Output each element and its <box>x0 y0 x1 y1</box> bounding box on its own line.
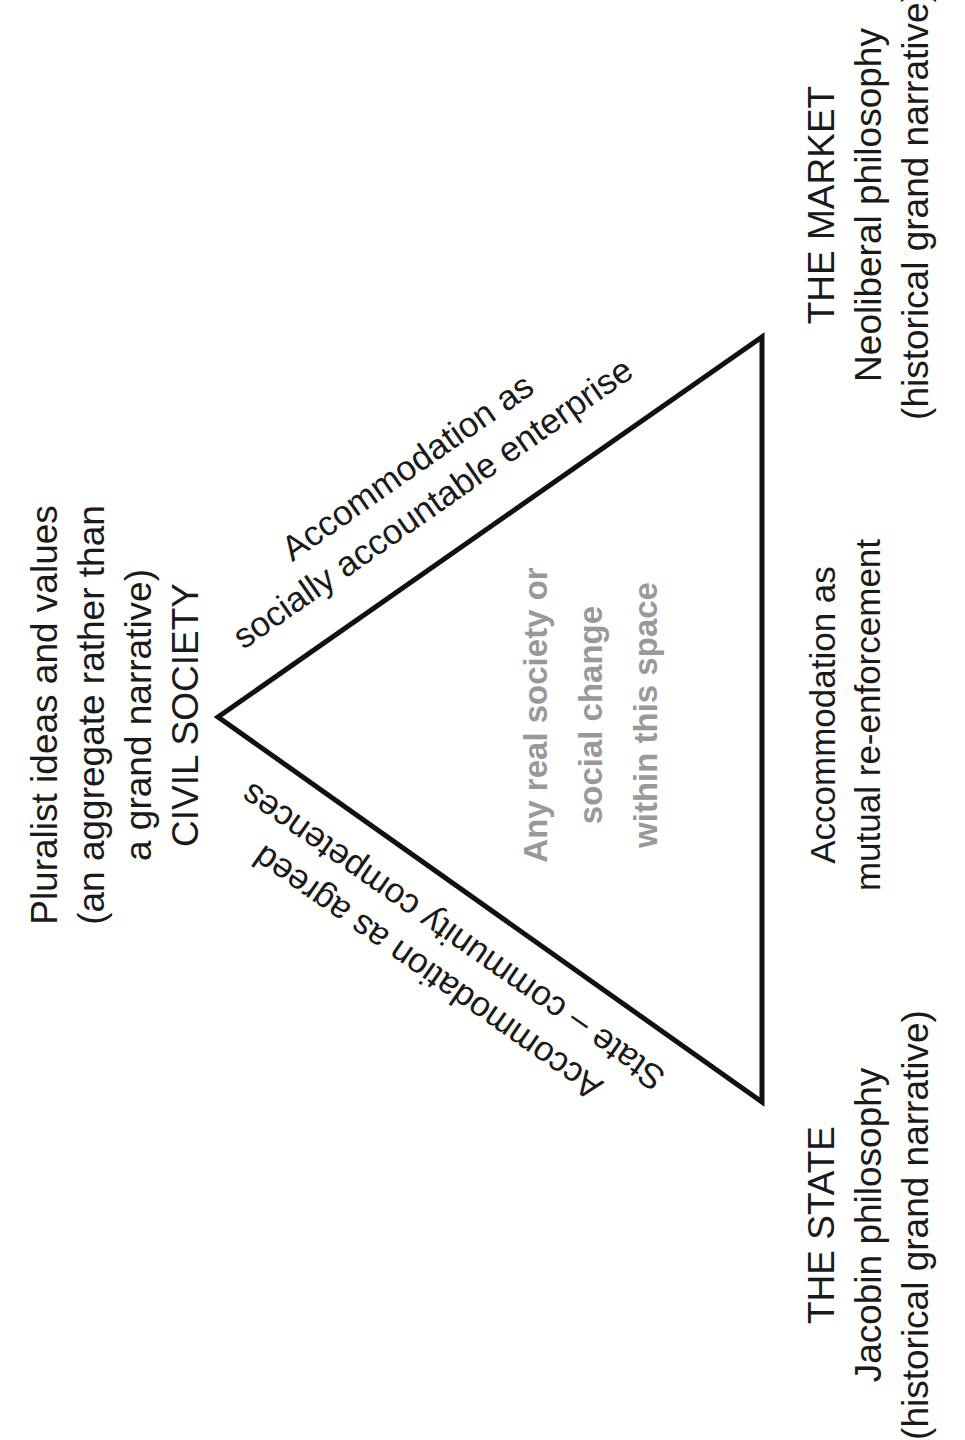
state-philosophy: Jacobin philosophy <box>845 1010 892 1440</box>
civil-society-label: Pluralist ideas and values (an aggregate… <box>21 505 209 925</box>
state-title: THE STATE <box>798 1010 845 1440</box>
state-narrative: (historical grand narrative) <box>892 1010 939 1440</box>
civil-society-line-3: a grand narrative) <box>115 505 162 925</box>
center-label: Any real society or social change within… <box>508 567 673 862</box>
civil-society-line-2: (an aggregate rather than <box>68 505 115 925</box>
civil-society-line-1: Pluralist ideas and values <box>21 505 68 925</box>
market-label: THE MARKET Neoliberal philosophy (histor… <box>798 0 939 420</box>
edge-state-market-line-1: Accommodation as <box>800 539 845 891</box>
civil-society-title: CIVIL SOCIETY <box>162 505 209 925</box>
center-line-3: within this space <box>618 567 673 862</box>
market-title: THE MARKET <box>798 0 845 420</box>
center-line-2: social change <box>563 567 618 862</box>
center-line-1: Any real society or <box>508 567 563 862</box>
market-philosophy: Neoliberal philosophy <box>845 0 892 420</box>
state-label: THE STATE Jacobin philosophy (historical… <box>798 1010 939 1440</box>
edge-state-market-line-2: mutual re-enforcement <box>845 539 890 891</box>
market-narrative: (historical grand narrative) <box>892 0 939 420</box>
edge-label-state-market: Accommodation as mutual re-enforcement <box>800 539 890 891</box>
